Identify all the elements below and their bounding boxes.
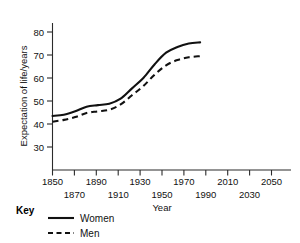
y-axis-title: Expectation of life/years [18,45,29,146]
y-axis-tick-labels: 80 70 60 50 40 30 [33,27,44,153]
y-axis-ticks [47,32,53,147]
y-tick-label-60: 60 [33,73,44,84]
series-line-women [53,42,201,116]
chart-key: Key Women Men [16,205,114,239]
x-tick-label-1850: 1850 [42,176,63,187]
x-axis-ticks [53,170,272,176]
x-axis-tick-labels-upper: 1850 1890 1930 1970 2010 2050 [42,176,282,187]
y-tick-label-80: 80 [33,27,44,38]
x-tick-label-1890: 1890 [86,176,107,187]
x-tick-label-1950: 1950 [151,189,172,200]
x-tick-label-1990: 1990 [195,189,216,200]
x-tick-label-1910: 1910 [108,189,129,200]
x-tick-label-2050: 2050 [261,176,282,187]
key-title: Key [16,205,35,216]
y-tick-label-40: 40 [33,119,44,130]
y-tick-label-30: 30 [33,142,44,153]
key-label-women: Women [80,213,114,224]
x-axis-tick-labels-lower: 1870 1910 1950 1990 2030 [64,189,260,200]
y-tick-label-50: 50 [33,96,44,107]
x-axis-title: Year [152,202,171,213]
x-tick-label-1930: 1930 [130,176,151,187]
x-tick-label-1970: 1970 [173,176,194,187]
chart-axes [53,23,292,170]
life-expectancy-chart: 80 70 60 50 40 30 Expectation of life/ye… [0,0,300,243]
x-tick-label-2010: 2010 [217,176,238,187]
key-label-men: Men [80,228,99,239]
x-tick-label-2030: 2030 [239,189,260,200]
chart-canvas: 80 70 60 50 40 30 Expectation of life/ye… [0,0,300,243]
y-tick-label-70: 70 [33,50,44,61]
chart-series-group [53,42,201,121]
x-tick-label-1870: 1870 [64,189,85,200]
